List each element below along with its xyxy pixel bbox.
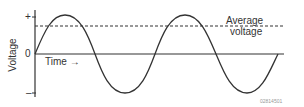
time-label: Time → (45, 57, 80, 67)
plus-label: + (25, 12, 31, 22)
zero-label: 0 (25, 49, 31, 59)
minus-label: – (26, 88, 32, 98)
average-label-line1: Average (226, 16, 263, 26)
average-label-line2: voltage (230, 27, 262, 37)
figure-code: 02814501 (260, 96, 282, 106)
voltage-axis-label: Voltage (8, 38, 18, 71)
